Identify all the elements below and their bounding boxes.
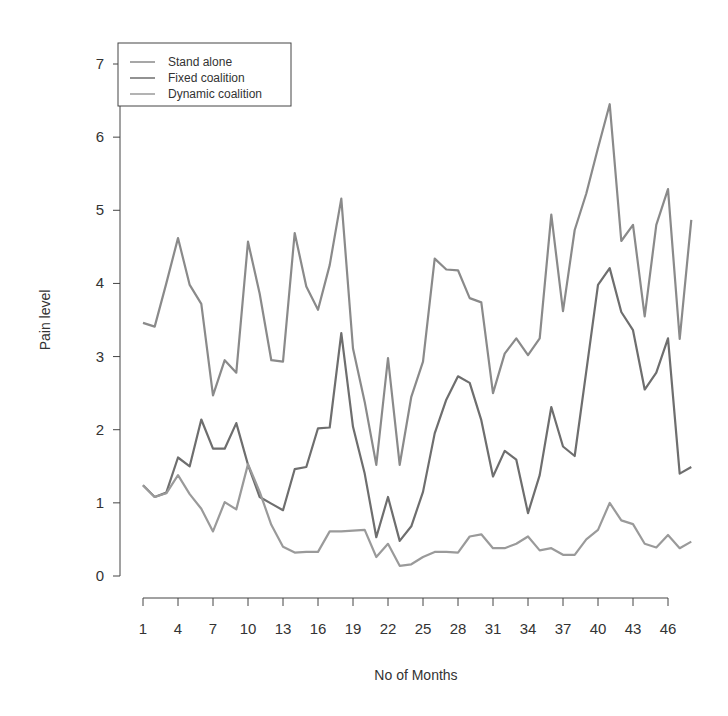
x-tick-label: 19 [345, 620, 362, 637]
x-axis-title: No of Months [374, 667, 457, 683]
legend-label-dynamic-coalition: Dynamic coalition [168, 87, 262, 101]
x-tick-label: 13 [275, 620, 292, 637]
y-tick-label: 0 [96, 567, 104, 584]
x-tick-label: 31 [485, 620, 502, 637]
x-tick-label: 22 [380, 620, 397, 637]
plot-area [143, 104, 691, 566]
y-tick-label: 5 [96, 201, 104, 218]
x-tick-label: 43 [625, 620, 642, 637]
x-tick-label: 25 [415, 620, 432, 637]
y-tick-label: 1 [96, 494, 104, 511]
y-axis-title: Pain level [37, 290, 53, 351]
x-axis: 14710131619222528313437404346 [139, 598, 677, 637]
series-dynamic-coalition [143, 464, 691, 566]
x-tick-label: 34 [520, 620, 537, 637]
x-tick-label: 40 [590, 620, 607, 637]
y-axis: 01234567 [96, 55, 120, 584]
y-tick-label: 2 [96, 421, 104, 438]
legend-label-fixed-coalition: Fixed coalition [168, 71, 245, 85]
x-tick-label: 4 [174, 620, 182, 637]
y-tick-label: 7 [96, 55, 104, 72]
y-tick-label: 4 [96, 274, 104, 291]
legend-label-stand-alone: Stand alone [168, 55, 232, 69]
legend: Stand alone Fixed coalition Dynamic coal… [118, 43, 291, 106]
line-chart: 01234567 14710131619222528313437404346 N… [0, 0, 728, 716]
series-fixed-coalition [143, 268, 691, 541]
x-tick-label: 46 [660, 620, 677, 637]
x-tick-label: 28 [450, 620, 467, 637]
y-tick-label: 6 [96, 128, 104, 145]
x-tick-label: 37 [555, 620, 572, 637]
x-tick-label: 7 [209, 620, 217, 637]
series-stand-alone [143, 104, 691, 465]
y-tick-label: 3 [96, 348, 104, 365]
x-tick-label: 10 [240, 620, 257, 637]
x-tick-label: 1 [139, 620, 147, 637]
x-tick-label: 16 [310, 620, 327, 637]
